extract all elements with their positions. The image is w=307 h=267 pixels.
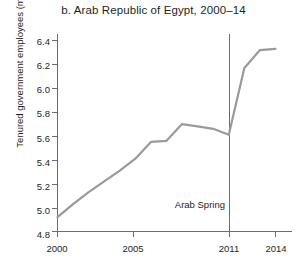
chart-figure: b. Arab Republic of Egypt, 2000–14 Tenur…	[0, 0, 307, 267]
data-series-line	[58, 49, 276, 217]
y-tick-marks	[52, 41, 58, 232]
x-tick-marks	[58, 232, 276, 238]
plot-area	[0, 0, 307, 267]
